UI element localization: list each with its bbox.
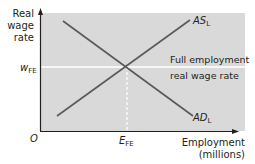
origin-label: O [30, 133, 38, 144]
y-axis-arrow-icon [38, 8, 43, 15]
x-axis-label-line1: Employment [182, 137, 245, 148]
annotation-line1: Full employment [170, 54, 250, 65]
y-axis-label-line3: rate [14, 32, 34, 43]
labor-market-chart: Real wage rate wFE O EFE Employment (mil… [0, 0, 255, 164]
y-axis-label-line1: Real [12, 8, 34, 19]
x-axis-label-line2: (millions) [199, 149, 245, 160]
y-axis-label-line2: wage [7, 20, 34, 31]
e-fe-label: EFE [119, 135, 134, 148]
annotation-line2: real wage rate [170, 70, 239, 81]
w-fe-label: wFE [20, 62, 37, 75]
